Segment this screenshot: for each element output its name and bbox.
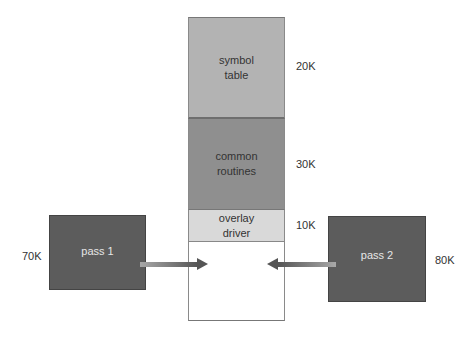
arrow-left-icon bbox=[267, 258, 278, 270]
arrow-pass-2-shaft bbox=[278, 262, 336, 267]
pass-label: pass 2 bbox=[361, 249, 393, 261]
segment-label: routines bbox=[217, 165, 256, 177]
segment-label: overlay bbox=[219, 212, 254, 224]
arrow-pass-1-shaft bbox=[140, 262, 198, 267]
size-label-symbol-table: 20K bbox=[296, 60, 316, 72]
size-label-overlay-driver: 10K bbox=[296, 219, 316, 231]
segment-label: driver bbox=[223, 227, 251, 239]
segment-overlay-driver: overlaydriver bbox=[188, 210, 285, 242]
size-label-pass-1: 70K bbox=[22, 250, 42, 262]
segment-common-routines: commonroutines bbox=[188, 119, 285, 210]
pass-1-box: pass 1 bbox=[49, 215, 146, 290]
segment-symbol-table: symboltable bbox=[188, 17, 285, 119]
pass-2-box: pass 2 bbox=[328, 216, 426, 302]
size-label-common-routines: 30K bbox=[296, 158, 316, 170]
segment-label: symbol bbox=[219, 54, 254, 66]
segment-label: table bbox=[225, 69, 249, 81]
pass-label: pass 1 bbox=[81, 245, 113, 257]
size-label-pass-2: 80K bbox=[435, 254, 455, 266]
segment-label: common bbox=[215, 150, 257, 162]
segment-overlay-area bbox=[188, 242, 285, 321]
arrow-right-icon bbox=[197, 258, 208, 270]
